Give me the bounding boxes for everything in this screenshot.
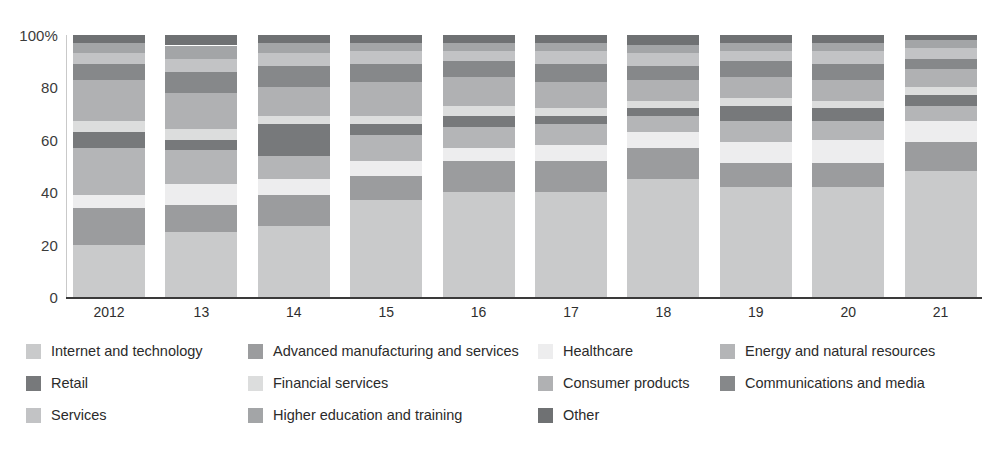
bar-segment[interactable] (443, 192, 515, 297)
legend-item[interactable]: Healthcare (538, 336, 633, 366)
bar-segment[interactable] (165, 150, 237, 184)
bar-segment[interactable] (535, 51, 607, 64)
bar-segment[interactable] (165, 205, 237, 231)
bar-segment[interactable] (258, 43, 330, 53)
bar-segment[interactable] (905, 142, 977, 171)
bar-segment[interactable] (73, 43, 145, 53)
bar-segment[interactable] (812, 43, 884, 51)
bar-segment[interactable] (165, 46, 237, 59)
bar-segment[interactable] (812, 108, 884, 121)
bar-segment[interactable] (73, 132, 145, 148)
legend-item[interactable]: Retail (26, 368, 88, 398)
bar-segment[interactable] (535, 145, 607, 161)
bar-segment[interactable] (905, 69, 977, 87)
bar-segment[interactable] (535, 116, 607, 124)
bar-segment[interactable] (720, 106, 792, 122)
bar-15[interactable] (350, 35, 422, 297)
bar-segment[interactable] (812, 35, 884, 43)
bar-16[interactable] (443, 35, 515, 297)
legend-item[interactable]: Energy and natural resources (720, 336, 935, 366)
bar-segment[interactable] (905, 171, 977, 297)
bar-segment[interactable] (812, 187, 884, 297)
bar-segment[interactable] (258, 66, 330, 87)
bar-segment[interactable] (720, 142, 792, 163)
bar-20[interactable] (812, 35, 884, 297)
legend-item[interactable]: Advanced manufacturing and services (248, 336, 519, 366)
bar-segment[interactable] (350, 43, 422, 51)
bar-segment[interactable] (905, 121, 977, 142)
bar-segment[interactable] (443, 161, 515, 192)
bar-segment[interactable] (350, 64, 422, 82)
bar-segment[interactable] (350, 116, 422, 124)
bar-segment[interactable] (443, 148, 515, 161)
bar-segment[interactable] (535, 192, 607, 297)
bar-segment[interactable] (535, 35, 607, 43)
bar-segment[interactable] (812, 64, 884, 80)
bar-segment[interactable] (258, 53, 330, 66)
bar-segment[interactable] (720, 121, 792, 142)
bar-segment[interactable] (627, 101, 699, 109)
bar-segment[interactable] (258, 195, 330, 226)
bar-segment[interactable] (720, 51, 792, 61)
bar-segment[interactable] (165, 129, 237, 139)
bar-segment[interactable] (165, 184, 237, 205)
bar-segment[interactable] (350, 161, 422, 177)
bar-segment[interactable] (165, 35, 237, 45)
bar-segment[interactable] (720, 61, 792, 77)
bar-segment[interactable] (73, 64, 145, 80)
bar-segment[interactable] (73, 148, 145, 195)
legend-item[interactable]: Internet and technology (26, 336, 203, 366)
bar-segment[interactable] (812, 163, 884, 187)
bar-segment[interactable] (73, 80, 145, 122)
bar-segment[interactable] (443, 77, 515, 106)
bar-segment[interactable] (535, 108, 607, 116)
bar-segment[interactable] (443, 106, 515, 116)
bar-segment[interactable] (812, 140, 884, 164)
bar-segment[interactable] (258, 179, 330, 195)
bar-segment[interactable] (535, 43, 607, 51)
bar-segment[interactable] (535, 82, 607, 108)
bar-segment[interactable] (627, 66, 699, 79)
legend-item[interactable]: Consumer products (538, 368, 690, 398)
bar-segment[interactable] (535, 64, 607, 82)
bar-segment[interactable] (350, 35, 422, 43)
bar-segment[interactable] (258, 156, 330, 180)
bar-segment[interactable] (258, 226, 330, 297)
bar-segment[interactable] (627, 80, 699, 101)
bar-segment[interactable] (350, 82, 422, 116)
bar-segment[interactable] (720, 98, 792, 106)
bar-segment[interactable] (443, 61, 515, 77)
bar-segment[interactable] (73, 35, 145, 43)
bar-segment[interactable] (627, 148, 699, 179)
bar-segment[interactable] (258, 35, 330, 43)
bar-segment[interactable] (812, 51, 884, 64)
bar-segment[interactable] (720, 163, 792, 187)
bar-segment[interactable] (627, 132, 699, 148)
bar-segment[interactable] (350, 135, 422, 161)
bar-2012[interactable] (73, 35, 145, 297)
bar-segment[interactable] (443, 43, 515, 51)
bar-segment[interactable] (443, 51, 515, 61)
bar-segment[interactable] (258, 87, 330, 116)
bar-segment[interactable] (165, 140, 237, 150)
bar-segment[interactable] (905, 35, 977, 40)
bar-segment[interactable] (720, 35, 792, 43)
bar-segment[interactable] (73, 208, 145, 245)
bar-18[interactable] (627, 35, 699, 297)
legend-item[interactable]: Higher education and training (248, 400, 462, 430)
bar-segment[interactable] (812, 101, 884, 109)
bar-19[interactable] (720, 35, 792, 297)
bar-segment[interactable] (905, 87, 977, 95)
bar-segment[interactable] (350, 51, 422, 64)
bar-segment[interactable] (812, 80, 884, 101)
bar-segment[interactable] (165, 59, 237, 72)
legend-item[interactable]: Financial services (248, 368, 388, 398)
bar-segment[interactable] (258, 116, 330, 124)
bar-segment[interactable] (627, 45, 699, 53)
bar-segment[interactable] (535, 161, 607, 192)
bar-segment[interactable] (905, 59, 977, 69)
bar-segment[interactable] (720, 187, 792, 297)
bar-segment[interactable] (443, 116, 515, 126)
bar-segment[interactable] (350, 124, 422, 134)
bar-segment[interactable] (165, 72, 237, 93)
